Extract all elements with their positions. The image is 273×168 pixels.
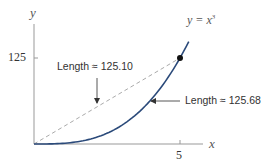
curve-equation-label: y = x3	[187, 13, 215, 28]
curve-y-equals-x-cubed	[34, 42, 189, 144]
secant-length-label: Length ≈ 125.10	[57, 60, 133, 72]
curve-length-label: Length ≈ 125.68	[185, 94, 261, 106]
arc-length-figure	[0, 0, 273, 168]
x-tick-label: 5	[176, 148, 182, 163]
x-axis-label: x	[209, 136, 215, 152]
y-tick-label: 125	[8, 50, 26, 65]
y-axis-label: y	[30, 5, 36, 21]
point-5-125	[177, 55, 183, 61]
